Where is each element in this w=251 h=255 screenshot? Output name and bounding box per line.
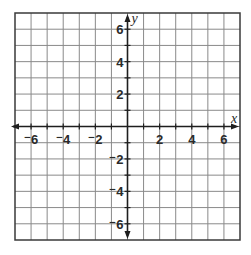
axes [11, 14, 239, 239]
y-tick-label: ⁻4 [109, 184, 124, 199]
x-axis-label: x [230, 111, 238, 126]
y-tick-label: ⁻6 [109, 217, 123, 232]
x-tick-label: 4 [188, 132, 196, 147]
coordinate-plane: ⁻6⁻4⁻2246⁻6⁻4⁻2246 x y [0, 0, 251, 255]
x-tick-label: 2 [156, 132, 163, 147]
x-tick-label: ⁻6 [24, 132, 38, 147]
y-tick-label: 6 [116, 22, 123, 37]
y-tick-label: 4 [116, 55, 124, 70]
x-tick-label: ⁻2 [88, 132, 102, 147]
arrow-down-icon [125, 231, 131, 239]
arrow-up-icon [125, 14, 131, 22]
y-tick-label: 2 [116, 87, 123, 102]
x-tick-label: ⁻4 [56, 132, 71, 147]
y-tick-label: ⁻2 [109, 152, 123, 167]
y-axis-label: y [130, 11, 139, 26]
x-tick-label: 6 [220, 132, 227, 147]
